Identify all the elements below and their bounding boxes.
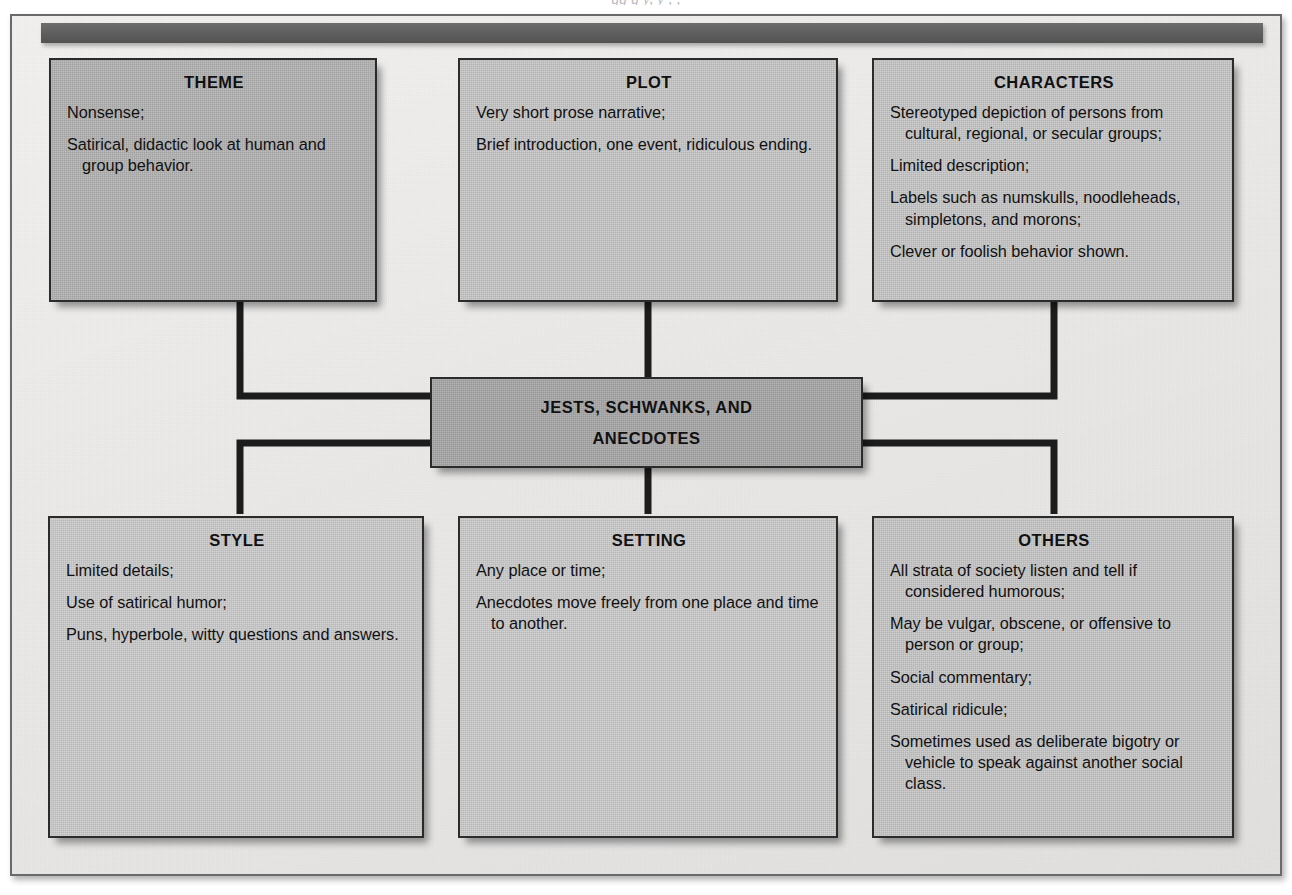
node-theme-items: Nonsense; Satirical, didactic look at hu… xyxy=(67,102,361,177)
list-item: Brief introduction, one event, ridiculou… xyxy=(476,134,822,155)
list-item: Nonsense; xyxy=(67,102,361,123)
list-item: Limited description; xyxy=(890,155,1218,176)
list-item: All strata of society listen and tell if… xyxy=(890,560,1218,602)
node-others-items: All strata of society listen and tell if… xyxy=(890,560,1218,795)
top-cut-caption: gg g y, y , , xyxy=(0,0,1292,5)
figure-canvas: gg g y, y , , THEME Nonsense; Satirical,… xyxy=(0,0,1292,895)
center-line-1: JESTS, SCHWANKS, AND xyxy=(541,398,753,416)
node-theme[interactable]: THEME Nonsense; Satirical, didactic look… xyxy=(49,58,377,302)
list-item: Satirical ridicule; xyxy=(890,699,1218,720)
node-style[interactable]: STYLE Limited details; Use of satirical … xyxy=(48,516,424,838)
header-bar xyxy=(41,23,1263,43)
list-item: Labels such as numskulls, noodleheads, s… xyxy=(890,187,1218,229)
list-item: Use of satirical humor; xyxy=(66,592,408,613)
list-item: Puns, hyperbole, witty questions and ans… xyxy=(66,624,408,645)
node-others[interactable]: OTHERS All strata of society listen and … xyxy=(872,516,1234,838)
node-characters-items: Stereotyped depiction of persons from cu… xyxy=(890,102,1218,262)
list-item: Social commentary; xyxy=(890,667,1218,688)
list-item: May be vulgar, obscene, or offensive to … xyxy=(890,613,1218,655)
center-line-2: ANECDOTES xyxy=(592,429,700,447)
list-item: Any place or time; xyxy=(476,560,822,581)
list-item: Sometimes used as deliberate bigotry or … xyxy=(890,731,1218,795)
list-item: Stereotyped depiction of persons from cu… xyxy=(890,102,1218,144)
node-plot[interactable]: PLOT Very short prose narrative; Brief i… xyxy=(458,58,838,302)
node-style-title: STYLE xyxy=(66,531,408,550)
list-item: Clever or foolish behavior shown. xyxy=(890,241,1218,262)
node-others-title: OTHERS xyxy=(890,531,1218,550)
node-setting-items: Any place or time; Anecdotes move freely… xyxy=(476,560,822,635)
list-item: Limited details; xyxy=(66,560,408,581)
node-characters[interactable]: CHARACTERS Stereotyped depiction of pers… xyxy=(872,58,1234,302)
node-plot-title: PLOT xyxy=(476,73,822,92)
node-center[interactable]: JESTS, SCHWANKS, AND ANECDOTES xyxy=(430,377,863,468)
list-item: Very short prose narrative; xyxy=(476,102,822,123)
list-item: Satirical, didactic look at human and gr… xyxy=(67,134,361,176)
node-setting-title: SETTING xyxy=(476,531,822,550)
list-item: Anecdotes move freely from one place and… xyxy=(476,592,822,634)
node-theme-title: THEME xyxy=(67,73,361,92)
node-setting[interactable]: SETTING Any place or time; Anecdotes mov… xyxy=(458,516,838,838)
node-style-items: Limited details; Use of satirical humor;… xyxy=(66,560,408,646)
node-center-title: JESTS, SCHWANKS, AND ANECDOTES xyxy=(541,392,753,453)
node-plot-items: Very short prose narrative; Brief introd… xyxy=(476,102,822,155)
node-characters-title: CHARACTERS xyxy=(890,73,1218,92)
